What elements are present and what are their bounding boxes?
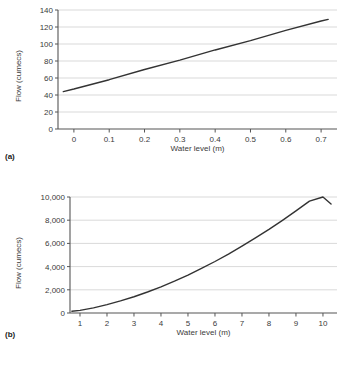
y-tick-label: 40 xyxy=(44,91,53,100)
x-tick-label: 7 xyxy=(240,319,245,328)
panel-label-a: (a) xyxy=(5,152,15,161)
y-tick-label: 0 xyxy=(61,309,66,318)
chart-b-y-axis-title: Flow (cumecs) xyxy=(14,237,23,289)
x-tick-label: 9 xyxy=(294,319,299,328)
y-tick-label: 140 xyxy=(40,6,54,15)
x-tick-label: 5 xyxy=(186,319,191,328)
x-tick-label: 0.3 xyxy=(174,135,186,144)
y-tick-label: 2,000 xyxy=(45,286,66,295)
x-tick-label: 3 xyxy=(132,319,137,328)
y-tick-label: 120 xyxy=(40,23,54,32)
figure-b: 02,0004,0006,0008,00010,00012345678910 F… xyxy=(0,185,347,369)
x-tick-label: 6 xyxy=(213,319,218,328)
figure-a: 02040608010012014000.10.20.30.40.50.60.7… xyxy=(0,0,347,185)
chart-b-canvas: 02,0004,0006,0008,00010,00012345678910 xyxy=(0,185,347,369)
x-tick-label: 0.6 xyxy=(280,135,292,144)
y-tick-label: 10,000 xyxy=(41,193,66,202)
chart-a-canvas: 02040608010012014000.10.20.30.40.50.60.7 xyxy=(0,0,347,185)
y-tick-label: 20 xyxy=(44,108,53,117)
y-tick-label: 60 xyxy=(44,74,53,83)
chart-b-x-axis-title: Water level (m) xyxy=(70,328,337,337)
x-tick-label: 0.1 xyxy=(104,135,116,144)
x-tick-label: 0 xyxy=(72,135,77,144)
x-tick-label: 0.5 xyxy=(245,135,257,144)
x-tick-label: 0.2 xyxy=(139,135,151,144)
chart-a-x-axis-title: Water level (m) xyxy=(58,144,337,153)
data-series-line xyxy=(63,19,328,91)
x-tick-label: 0.7 xyxy=(316,135,328,144)
y-tick-label: 4,000 xyxy=(45,263,66,272)
x-tick-label: 1 xyxy=(78,319,83,328)
y-tick-label: 8,000 xyxy=(45,216,66,225)
panel-label-b: (b) xyxy=(5,330,15,339)
data-series-line xyxy=(72,197,331,311)
y-tick-label: 100 xyxy=(40,40,54,49)
x-tick-label: 2 xyxy=(105,319,110,328)
x-tick-label: 10 xyxy=(319,319,328,328)
x-tick-label: 8 xyxy=(267,319,272,328)
chart-a-y-axis-title: Flow (cumecs) xyxy=(14,50,23,102)
x-tick-label: 0.4 xyxy=(210,135,222,144)
x-tick-label: 4 xyxy=(159,319,164,328)
y-tick-label: 0 xyxy=(49,125,54,134)
y-tick-label: 80 xyxy=(44,57,53,66)
y-tick-label: 6,000 xyxy=(45,239,66,248)
